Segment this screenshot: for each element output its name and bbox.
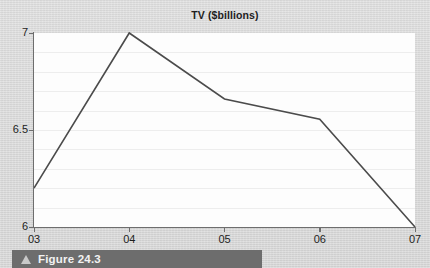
figure-caption-bar: Figure 24.3 <box>12 250 262 268</box>
y-axis-tick-label: 6.5 <box>0 123 28 135</box>
x-axis-tick <box>129 228 130 232</box>
triangle-up-icon <box>21 255 31 264</box>
x-axis-tick-label: 07 <box>400 233 430 245</box>
line-series-tv-billions <box>34 33 415 227</box>
x-axis-tick <box>319 228 320 232</box>
x-axis-tick <box>34 228 35 232</box>
y-axis-tick <box>29 130 34 131</box>
y-axis-tick <box>29 33 34 34</box>
x-axis-tick-label: 05 <box>210 233 240 245</box>
figure-24-3: TV ($billions) 66.57 0304050607 Figure 2… <box>0 0 430 268</box>
chart-title: TV ($billions) <box>34 9 416 21</box>
x-axis-tick-label: 06 <box>305 233 335 245</box>
y-axis-tick-label: 7 <box>0 26 28 38</box>
plot-area <box>34 33 415 227</box>
x-axis-tick-label: 03 <box>19 233 49 245</box>
figure-caption-label: Figure 24.3 <box>38 253 101 265</box>
x-axis-tick-label: 04 <box>114 233 144 245</box>
x-axis-tick <box>415 228 416 232</box>
y-axis-tick-label: 6 <box>0 220 28 232</box>
x-axis-tick <box>224 228 225 232</box>
